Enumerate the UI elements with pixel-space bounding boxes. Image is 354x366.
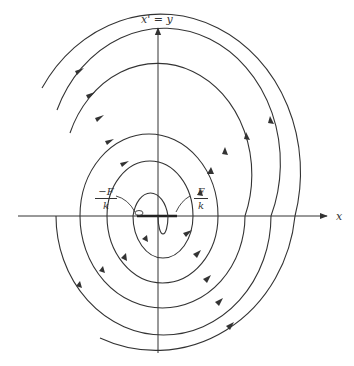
lower-arc-3: [80, 216, 245, 308]
arrow-icon: [86, 92, 95, 99]
arrow-icon: [95, 115, 104, 122]
f-numerator: F: [194, 186, 208, 199]
spiral-plot: [0, 0, 354, 366]
arrow-icon: [142, 235, 148, 242]
arrow-icon: [207, 167, 214, 174]
y-axis-label: x' = y: [141, 14, 173, 25]
lower-arc-5: [133, 216, 193, 258]
neg-f-numerator: −F: [95, 186, 117, 199]
arrow-icon: [121, 253, 127, 261]
x-axis-label: x: [336, 211, 342, 222]
spiral-trajectories: [42, 14, 301, 350]
lower-arc-4: [107, 216, 218, 283]
neg-f-over-k-label: −F k: [95, 186, 117, 211]
upper-arc-2: [57, 28, 280, 216]
arrow-icon: [215, 298, 223, 306]
phase-plane-diagram: x' = y x −F k F k: [0, 0, 354, 366]
f-over-k-label: F k: [194, 186, 208, 211]
arrow-icon: [222, 147, 228, 155]
lower-arc-6: [158, 216, 168, 234]
lower-arc-1: [100, 216, 295, 350]
arrow-icon: [120, 161, 129, 167]
arrow-icon: [203, 275, 211, 283]
upper-arc-1: [42, 14, 301, 216]
marker-pointers: [116, 196, 190, 216]
neg-f-denominator: k: [95, 199, 117, 211]
upper-arc-6: [133, 193, 168, 216]
arrow-icon: [105, 139, 114, 145]
arrow-icon: [193, 250, 201, 258]
arrow-icon: [99, 266, 105, 273]
f-denominator: k: [194, 199, 208, 211]
upper-arc-5: [107, 161, 193, 216]
